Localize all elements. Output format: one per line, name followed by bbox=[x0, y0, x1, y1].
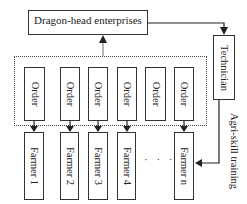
order-node: Order bbox=[60, 67, 80, 121]
dragon-head-label: Dragon-head enterprises bbox=[29, 14, 147, 26]
farmer-node: Farmer 4 bbox=[117, 132, 136, 200]
order-node: Order bbox=[145, 67, 166, 121]
farmer-node: Farmer 1 bbox=[24, 132, 44, 200]
agri-skill-training-label: Agri-skill training bbox=[224, 103, 244, 198]
farmer-node: Farmer n bbox=[174, 132, 194, 200]
ellipsis: · · · bbox=[144, 153, 176, 165]
technician-node: Technician bbox=[213, 35, 235, 100]
order-node: Order bbox=[117, 67, 137, 121]
order-node: Order bbox=[88, 67, 108, 121]
dragon-head-enterprises-node: Dragon-head enterprises bbox=[28, 10, 148, 35]
farmer-node: Farmer 3 bbox=[88, 132, 108, 200]
order-node: Order bbox=[24, 67, 45, 121]
farmer-node: Farmer 2 bbox=[60, 132, 79, 200]
order-node: Order bbox=[174, 67, 194, 121]
